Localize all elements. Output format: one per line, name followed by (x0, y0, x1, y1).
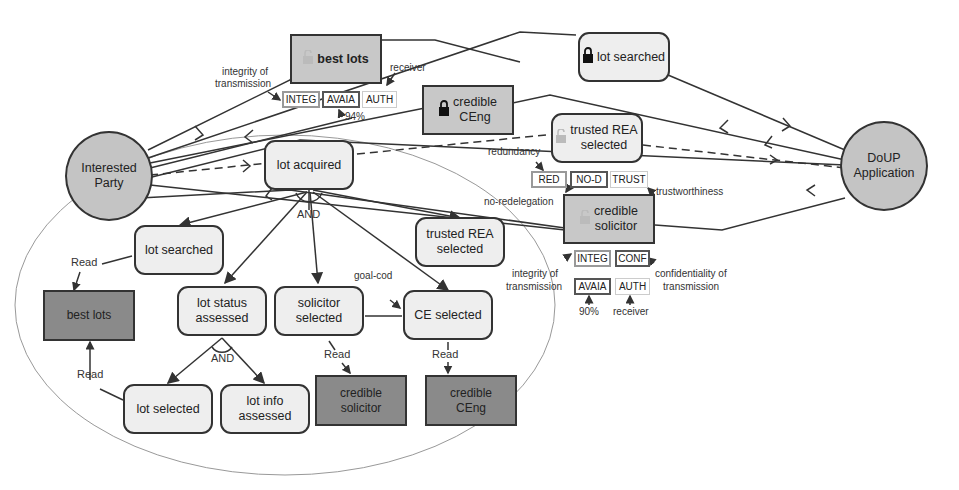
goal-label-line2: assessed (196, 311, 249, 326)
goal-label-line1: trusted REA (570, 123, 637, 138)
annotation-no-redelegation: no-redelegation (484, 196, 554, 208)
resource-best-lots[interactable]: best lots (43, 290, 135, 341)
resource-credible-solicitor-delegated[interactable]: credible solicitor (563, 194, 655, 244)
goal-label-line1: trusted REA (426, 227, 493, 242)
tag-integ[interactable]: INTEG (282, 91, 320, 108)
annotation-integrity-sol-1: integrity of (512, 268, 558, 280)
goal-label-line1: solicitor (298, 296, 340, 311)
annotation-goal-cod: goal-cod (354, 270, 392, 282)
and-decomposition-label: AND (211, 352, 234, 364)
locked-lock-icon (439, 100, 449, 120)
annotation-trustworthiness: trustworthiness (656, 186, 723, 198)
read-label: Read (324, 348, 350, 360)
resource-label-line1: credible (450, 386, 492, 401)
tag-auth[interactable]: AUTH (362, 91, 397, 108)
unlocked-lock-icon (580, 210, 590, 228)
goal-label: lot acquired (277, 158, 342, 173)
resource-label-line2: solicitor (594, 219, 638, 234)
resource-label-group: credible CEng (453, 95, 497, 125)
goal-label-line2: assessed (239, 409, 292, 424)
resource-best-lots-delegated[interactable]: best lots (290, 34, 382, 84)
resource-label: best lots (317, 52, 368, 67)
annotation-integrity-sol-2: transmission (506, 281, 562, 293)
tag-avaia[interactable]: AVAIA (574, 278, 611, 295)
tag-no-d[interactable]: NO-D (570, 171, 608, 188)
unlocked-lock-icon (556, 129, 566, 147)
actor-doup-application[interactable]: DoUP Application (840, 121, 928, 211)
goal-solicitor-selected[interactable]: solicitor selected (274, 286, 364, 336)
annotation-conf-1: confidentiality of (655, 268, 727, 280)
read-label: Read (432, 348, 458, 360)
goal-label-line1: lot status (197, 296, 247, 311)
read-label: Read (71, 256, 97, 268)
goal-label: CE selected (414, 308, 481, 323)
goal-trusted-rea-selected[interactable]: trusted REA selected (415, 217, 505, 267)
resource-label-line2: solicitor (341, 401, 382, 416)
goal-lot-info-assessed[interactable]: lot info assessed (220, 384, 310, 434)
resource-label-group: credible solicitor (594, 204, 638, 234)
goal-lot-searched-delegated[interactable]: lot searched (578, 32, 670, 82)
goal-lot-searched[interactable]: lot searched (134, 225, 224, 275)
annotation-pct-sol: 90% (579, 306, 599, 318)
tag-trust[interactable]: TRUST (610, 171, 648, 188)
resource-credible-ceng[interactable]: credible CEng (425, 375, 517, 426)
goal-label: lot searched (597, 50, 665, 65)
resource-label-line2: CEng (456, 401, 486, 416)
annotation-integrity-top-1: integrity of (222, 66, 268, 78)
annotation-receiver-sol: receiver (613, 306, 649, 318)
actor-label-line1: Interested (81, 161, 137, 176)
actor-interested-party[interactable]: Interested Party (65, 131, 153, 221)
tag-conf[interactable]: CONF (615, 250, 650, 267)
goal-model-diagram: Interested Party DoUP Application best l… (0, 0, 959, 490)
actor-label-line2: Application (853, 166, 914, 181)
annotation-redundancy: redundancy (488, 146, 540, 158)
resource-credible-ceng-delegated[interactable]: credible CEng (422, 85, 514, 135)
actor-label-line2: Party (94, 176, 123, 191)
goal-label-line2: selected (437, 242, 484, 257)
goal-label: lot searched (145, 243, 213, 258)
goal-lot-acquired[interactable]: lot acquired (264, 140, 354, 190)
resource-label: best lots (67, 308, 112, 323)
goal-label-line1: lot info (247, 394, 284, 409)
resource-label-line2: CEng (453, 110, 497, 125)
resource-label-line1: credible (453, 95, 497, 110)
goal-trusted-rea-delegated[interactable]: trusted REA selected (551, 113, 643, 163)
annotation-conf-2: transmission (663, 281, 719, 293)
and-decomposition-label: AND (297, 208, 320, 220)
tag-integ[interactable]: INTEG (574, 250, 611, 267)
resource-label-line1: credible (594, 204, 638, 219)
annotation-receiver-top: receiver (390, 62, 426, 74)
resource-credible-solicitor[interactable]: credible solicitor (315, 375, 407, 426)
goal-lot-selected[interactable]: lot selected (123, 384, 213, 434)
goal-label-line2: selected (296, 311, 343, 326)
tag-auth[interactable]: AUTH (615, 278, 650, 295)
goal-label: lot selected (136, 402, 199, 417)
read-label: Read (77, 368, 103, 380)
tag-red[interactable]: RED (531, 171, 567, 188)
goal-ce-selected[interactable]: CE selected (403, 290, 493, 340)
locked-lock-icon (583, 47, 593, 67)
goal-lot-status-assessed[interactable]: lot status assessed (177, 286, 267, 336)
annotation-pct-top: 94% (345, 111, 365, 123)
goal-label-group: trusted REA selected (570, 123, 637, 153)
actor-label-line1: DoUP (867, 151, 900, 166)
goal-label-line2: selected (570, 138, 637, 153)
resource-label-line1: credible (340, 386, 382, 401)
annotation-integrity-top-2: transmission (215, 78, 271, 90)
tag-avaia[interactable]: AVAIA (322, 91, 360, 108)
unlocked-lock-icon (303, 50, 313, 68)
